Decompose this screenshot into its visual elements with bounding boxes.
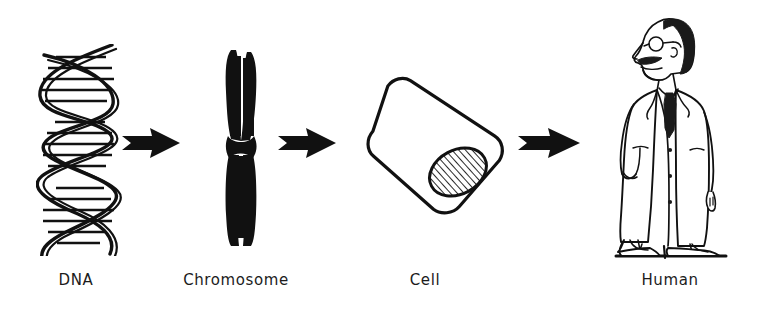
stage-label-cell: Cell [410,271,440,289]
stage-label-dna: DNA [59,271,94,289]
diagram-canvas: DNA Chromosome Cell Human [0,0,764,313]
stage-label-chromosome: Chromosome [183,271,289,289]
stage-label-human: Human [641,271,698,289]
diagram-artwork [0,0,764,313]
glasses-lens [649,37,663,51]
